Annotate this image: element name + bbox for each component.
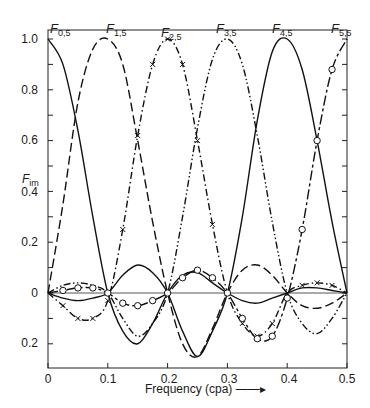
- y-axis-title: Fim: [22, 172, 39, 188]
- y-tick-0-2: 0.2: [6, 236, 38, 248]
- curve-label-f4: F4,5: [272, 22, 292, 40]
- axes: [48, 30, 347, 368]
- curve-label-f5: F5,5: [331, 22, 351, 40]
- curve-f5-5: [48, 39, 347, 341]
- curve-f4-5: [48, 38, 347, 357]
- circle-marker-icon: [194, 267, 200, 273]
- circle-marker-icon: [209, 275, 215, 281]
- curve-f3-5: [48, 39, 347, 336]
- curve-label-f3: F3,5: [216, 22, 236, 40]
- x-tick-0-1: 0.1: [93, 373, 123, 385]
- plot-frame: [48, 30, 347, 368]
- curves: [48, 38, 347, 357]
- circle-marker-icon: [120, 300, 126, 306]
- curve-label-f2: F2,5: [161, 26, 181, 44]
- x-axis-title: Frequency (cpa) ——▸: [145, 382, 266, 396]
- circle-marker-icon: [164, 290, 170, 296]
- circle-marker-icon: [239, 315, 245, 321]
- curve-label-f1: F1,5: [106, 22, 126, 40]
- x-tick-0: 0: [33, 373, 63, 385]
- chart-canvas: [0, 0, 370, 408]
- curve-f1-5: [48, 38, 347, 357]
- curve-label-f0: F0,5: [50, 22, 70, 40]
- x-marker-icon: [75, 316, 80, 321]
- x-marker-icon: [90, 316, 95, 321]
- circle-marker-icon: [90, 285, 96, 291]
- y-tick-0-8: 0.8: [6, 84, 38, 96]
- circle-marker-icon: [284, 295, 290, 301]
- circle-marker-icon: [299, 226, 305, 232]
- circle-marker-icon: [179, 275, 185, 281]
- circle-marker-icon: [75, 285, 81, 291]
- circle-marker-icon: [314, 137, 320, 143]
- circle-marker-icon: [254, 336, 260, 342]
- circle-marker-icon: [149, 297, 155, 303]
- circle-marker-icon: [224, 290, 230, 296]
- y-tick-0-6: 0.6: [6, 134, 38, 146]
- x-marker-icon: [270, 321, 275, 326]
- circle-marker-icon: [269, 333, 275, 339]
- y-tick-neg-0-2: 0.2: [6, 337, 38, 349]
- circle-marker-icon: [135, 303, 141, 309]
- circle-marker-icon: [60, 287, 66, 293]
- y-tick-1-0: 1.0: [6, 33, 38, 45]
- x-tick-0-4: 0.4: [274, 373, 304, 385]
- y-tick-0: 0: [6, 287, 38, 299]
- x-tick-0-5: 0.5: [332, 373, 362, 385]
- circle-marker-icon: [105, 290, 111, 296]
- circle-marker-icon: [329, 66, 335, 72]
- x-marker-icon: [60, 303, 65, 308]
